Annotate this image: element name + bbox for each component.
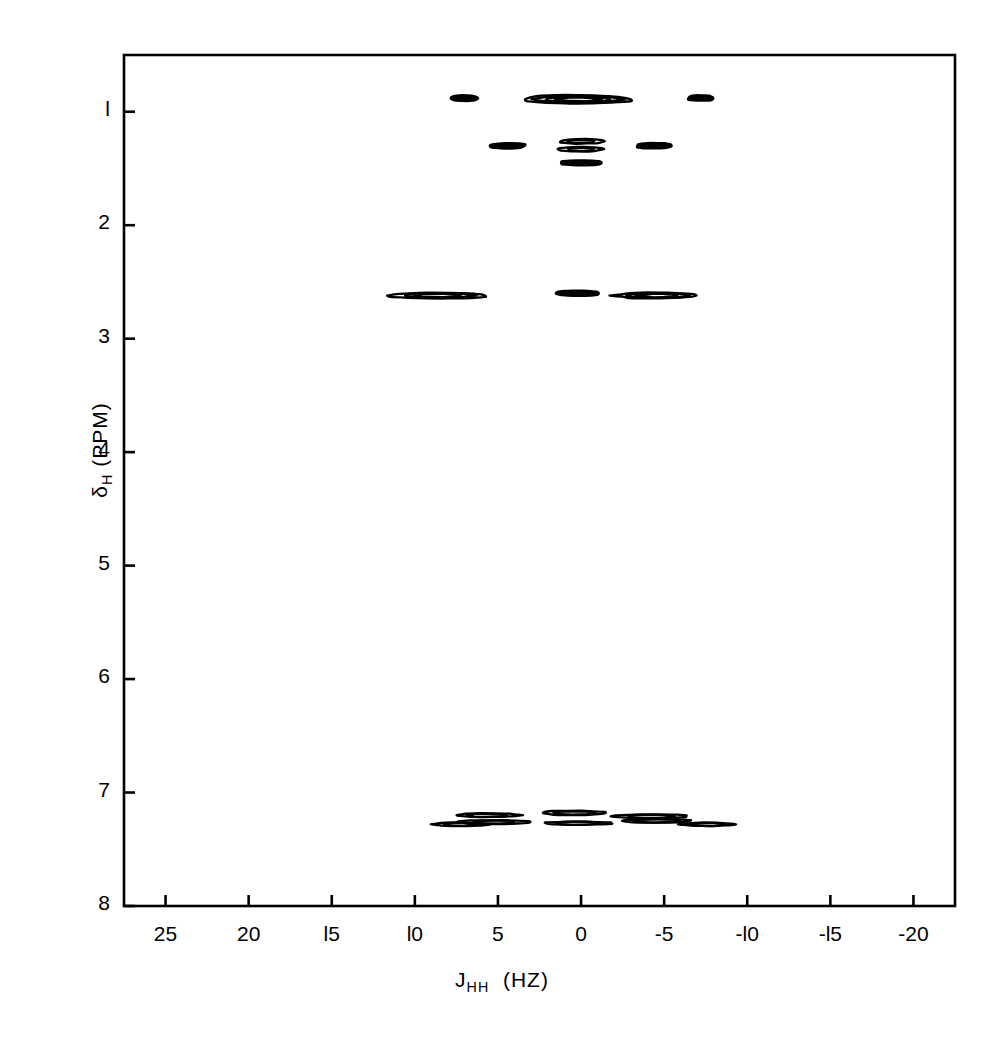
x-tick-label-3: l0 <box>370 922 460 946</box>
y-tick-label-6: 7 <box>70 778 110 802</box>
contour-peak <box>689 96 713 100</box>
y-tick-label-5: 6 <box>70 664 110 688</box>
contour-peak <box>678 823 736 826</box>
contour-peak <box>638 144 671 148</box>
plot-canvas <box>0 0 1004 1046</box>
x-tick-label-7: -l0 <box>702 922 792 946</box>
y-tick-label-1: 2 <box>70 210 110 234</box>
contour-peak <box>610 293 697 299</box>
contour-ring <box>638 144 671 148</box>
contour-peak <box>451 96 477 100</box>
y-tick-label-4: 5 <box>70 551 110 575</box>
contour-peaks <box>387 95 736 826</box>
x-tick-label-2: l5 <box>287 922 377 946</box>
x-tick-label-0: 25 <box>121 922 211 946</box>
contour-ring <box>553 811 595 814</box>
contour-peak <box>562 161 601 164</box>
contour-peak <box>543 811 606 815</box>
contour-peak <box>560 139 605 144</box>
x-axis-units: (HZ) <box>503 968 549 991</box>
contour-ring <box>557 291 598 295</box>
y-tick-label-3: 4 <box>70 437 110 461</box>
contour-ring <box>556 822 600 825</box>
contour-ring <box>689 96 713 100</box>
y-tick-label-0: l <box>70 97 110 121</box>
contour-ring <box>567 140 594 143</box>
x-tick-label-6: -5 <box>619 922 709 946</box>
plot-border <box>124 55 955 906</box>
x-tick-label-1: 20 <box>204 922 294 946</box>
contour-peak <box>457 820 531 824</box>
tick-marks <box>124 112 913 906</box>
contour-peak <box>557 291 598 295</box>
contour-peak <box>545 822 613 825</box>
contour-ring <box>628 815 675 818</box>
y-tick-label-2: 3 <box>70 324 110 348</box>
contour-peak <box>387 293 486 299</box>
contour-ring <box>415 294 461 297</box>
x-tick-label-9: -20 <box>868 922 958 946</box>
x-tick-label-5: 0 <box>536 922 626 946</box>
nmr-2d-contour-figure: 2520l5l050-5-l0-l5-20 l2345678 δH (PPM) … <box>0 0 1004 1046</box>
contour-ring <box>555 97 603 101</box>
contour-ring <box>467 814 507 817</box>
contour-ring <box>562 161 601 164</box>
contour-ring <box>568 148 594 151</box>
contour-peak <box>457 813 524 817</box>
axes-frame <box>124 55 955 906</box>
contour-peak <box>525 95 632 104</box>
x-axis-symbol: J <box>455 968 467 991</box>
contour-ring <box>474 821 514 824</box>
contour-peak <box>491 144 525 148</box>
x-axis-title: JHH (HZ) <box>0 968 1004 995</box>
x-axis-subscript: HH <box>467 979 490 995</box>
contour-peak <box>622 819 691 822</box>
contour-peak <box>558 147 605 152</box>
contour-ring <box>451 96 477 100</box>
contour-ring <box>634 819 680 822</box>
x-tick-label-8: -l5 <box>785 922 875 946</box>
contour-ring <box>491 144 525 148</box>
y-tick-label-7: 8 <box>70 891 110 915</box>
contour-ring <box>635 294 677 297</box>
contour-ring <box>691 823 723 826</box>
x-tick-label-4: 5 <box>453 922 543 946</box>
contour-peak <box>611 814 687 818</box>
